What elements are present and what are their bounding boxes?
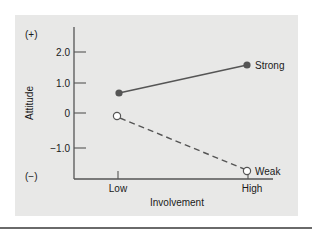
strong-point-high	[243, 61, 250, 68]
x-axis-title: Involvement	[150, 197, 204, 208]
y-tick-label: 2.0	[56, 47, 70, 58]
y-tick-label: 1.0	[56, 78, 70, 89]
strong-series-label: Strong	[255, 60, 284, 71]
x-tick-label: High	[242, 183, 263, 194]
line-chart: 2.0 1.0 0 −1.0 (+) (−) Low High Involvem…	[0, 0, 312, 231]
weak-point-low	[113, 112, 120, 119]
y-tick-label: −1.0	[50, 143, 70, 154]
weak-series-label: Weak	[255, 166, 281, 177]
y-axis-title: Attitude	[24, 86, 35, 120]
y-tick-label: 0	[64, 108, 70, 119]
y-pole-negative: (−)	[25, 171, 38, 182]
x-tick-label: Low	[109, 183, 128, 194]
weak-point-high	[243, 167, 250, 174]
weak-series-line	[120, 118, 244, 169]
y-pole-positive: (+)	[25, 29, 38, 40]
strong-series-line	[119, 65, 247, 93]
strong-point-low	[115, 89, 122, 96]
